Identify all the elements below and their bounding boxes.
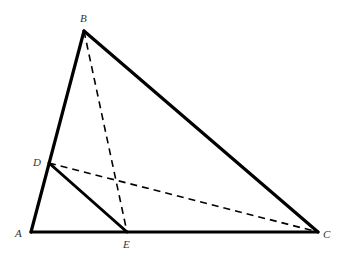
diagram-canvas: B A D E C [0,0,343,260]
label-d: D [32,156,41,168]
segment-ab [31,31,84,232]
triangle-diagram: B A D E C [0,0,343,260]
label-b: B [80,12,87,24]
label-e: E [122,238,130,250]
label-a: A [14,227,22,239]
label-c: C [323,228,331,240]
